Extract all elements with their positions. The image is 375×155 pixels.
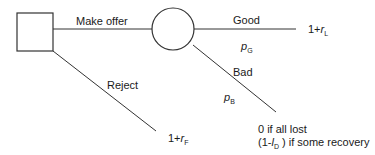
- bad-label: Bad: [233, 66, 253, 78]
- prob-bad-label: pB: [224, 91, 235, 108]
- payoff-bad-all-lost: 0 if all lost: [258, 123, 307, 135]
- reject-branch: [53, 51, 156, 131]
- payoff-good: 1+rL: [308, 23, 328, 40]
- reject-label: Reject: [107, 79, 138, 91]
- prob-good-label: pG: [241, 40, 253, 57]
- chance-node: [152, 8, 194, 50]
- payoff-reject: 1+rF: [168, 132, 189, 149]
- good-label: Good: [233, 14, 260, 26]
- decision-node: [17, 13, 53, 51]
- make-offer-label: Make offer: [76, 15, 128, 27]
- payoff-bad-recovery: (1-lD ) if some recovery: [258, 136, 369, 153]
